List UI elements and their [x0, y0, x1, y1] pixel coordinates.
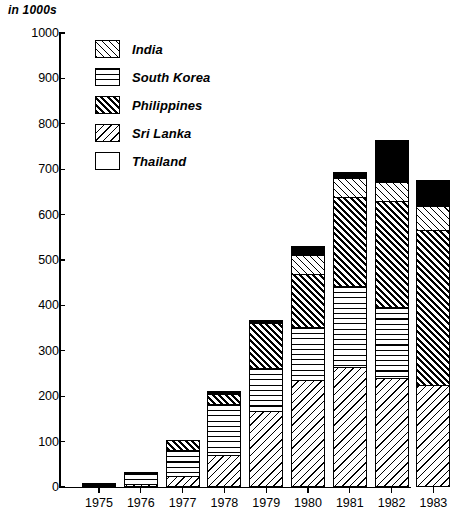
bar-segment-philippines — [416, 230, 450, 387]
y-axis-tick-label-wrap: 400 — [0, 299, 59, 311]
y-axis-tick — [59, 123, 65, 124]
bar-segment-south-korea — [375, 307, 409, 380]
bar-segment-south-korea — [291, 327, 325, 381]
x-axis-tick — [140, 487, 141, 493]
x-axis-tick-label: 1975 — [76, 496, 122, 510]
bar-segment-sri-lanka — [416, 385, 450, 487]
bar-segment-south-korea — [333, 286, 367, 368]
y-axis-tick-label: 900 — [7, 72, 59, 84]
x-axis-tick-label: 1976 — [118, 496, 164, 510]
bar-segment-thailand — [416, 180, 450, 207]
y-axis-tick-label: 800 — [7, 118, 59, 130]
x-axis-tick — [182, 487, 183, 493]
y-axis-tick — [59, 350, 65, 351]
x-axis-tick-label: 1979 — [243, 496, 289, 510]
x-axis-tick-label: 1980 — [285, 496, 331, 510]
y-axis-tick-label-wrap: 1000 — [0, 27, 59, 39]
x-axis-tick-label: 1982 — [369, 496, 415, 510]
y-axis-tick — [59, 441, 65, 442]
y-axis-tick-label-wrap: 900 — [0, 72, 59, 84]
y-axis-tick-label-wrap: 800 — [0, 118, 59, 130]
chart-legend: IndiaSouth KoreaPhilippinesSri LankaThai… — [95, 37, 210, 177]
x-axis-tick — [224, 487, 225, 493]
y-axis-tick-label: 100 — [7, 436, 59, 448]
y-axis-tick-label-wrap: 0 — [0, 481, 59, 493]
legend-item-sri-lanka[interactable]: Sri Lanka — [95, 121, 210, 145]
legend-swatch-icon — [95, 152, 120, 170]
x-axis-tick — [98, 487, 99, 493]
bar-segment-india — [375, 182, 409, 202]
bar-segment-sri-lanka — [166, 476, 200, 487]
bar-segment-south-korea — [249, 368, 283, 412]
legend-label: Thailand — [132, 154, 186, 169]
y-axis-tick-label: 200 — [7, 390, 59, 402]
x-axis-tick — [266, 487, 267, 493]
bar-1979[interactable] — [249, 320, 283, 487]
bar-1976[interactable] — [124, 472, 158, 487]
bar-segment-south-korea — [207, 404, 241, 456]
bar-segment-philippines — [375, 201, 409, 308]
x-axis-tick-label: 1983 — [410, 496, 454, 510]
legend-swatch-icon — [95, 40, 120, 58]
bar-segment-thailand — [375, 140, 409, 183]
y-axis-tick-label: 500 — [7, 254, 59, 266]
legend-item-south-korea[interactable]: South Korea — [95, 65, 210, 89]
y-axis-tick-label-wrap: 500 — [0, 254, 59, 266]
legend-label: India — [132, 42, 163, 57]
bar-segment-india — [416, 206, 450, 231]
bar-1983[interactable] — [416, 180, 450, 487]
y-axis-tick-label-wrap: 700 — [0, 163, 59, 175]
bar-segment-india — [291, 255, 325, 275]
legend-item-india[interactable]: India — [95, 37, 210, 61]
legend-swatch-icon — [95, 68, 120, 86]
y-axis-tick — [59, 259, 65, 260]
y-axis-tick-label: 1000 — [7, 27, 59, 39]
y-axis-tick-label: 600 — [7, 209, 59, 221]
x-axis-tick — [433, 487, 434, 493]
x-axis-tick-label: 1977 — [160, 496, 206, 510]
y-axis-tick-label-wrap: 600 — [0, 209, 59, 221]
legend-label: Philippines — [132, 98, 202, 113]
x-axis-tick — [391, 487, 392, 493]
x-axis-tick — [349, 487, 350, 493]
bar-segment-sri-lanka — [333, 367, 367, 487]
bar-segment-philippines — [291, 274, 325, 328]
bar-segment-sri-lanka — [291, 380, 325, 487]
bar-segment-india — [333, 178, 367, 198]
legend-label: South Korea — [132, 70, 210, 85]
y-axis-tick — [59, 396, 65, 397]
x-axis-tick-label: 1978 — [201, 496, 247, 510]
y-axis-tick-label-wrap: 300 — [0, 345, 59, 357]
x-axis-tick-label: 1981 — [327, 496, 373, 510]
legend-swatch-icon — [95, 124, 120, 142]
bar-segment-philippines — [333, 197, 367, 288]
y-axis-tick-label-wrap: 200 — [0, 390, 59, 402]
bar-1978[interactable] — [207, 391, 241, 487]
bar-1980[interactable] — [291, 246, 325, 487]
y-axis-tick-label-wrap: 100 — [0, 436, 59, 448]
bar-segment-sri-lanka — [375, 378, 409, 487]
y-axis-tick — [59, 214, 65, 215]
legend-swatch-icon — [95, 96, 120, 114]
bar-1982[interactable] — [375, 140, 409, 487]
legend-item-thailand[interactable]: Thailand — [95, 149, 210, 173]
y-axis-tick-label: 400 — [7, 299, 59, 311]
bar-segment-sri-lanka — [249, 411, 283, 487]
legend-item-philippines[interactable]: Philippines — [95, 93, 210, 117]
legend-label: Sri Lanka — [132, 126, 191, 141]
bar-1981[interactable] — [333, 172, 367, 487]
bar-segment-south-korea — [166, 450, 200, 477]
y-axis-tick-label: 0 — [7, 481, 59, 493]
y-axis-tick-label: 300 — [7, 345, 59, 357]
y-axis-tick — [59, 305, 65, 306]
y-axis-tick-label: 700 — [7, 163, 59, 175]
bar-segment-philippines — [249, 323, 283, 369]
y-axis-tick — [59, 32, 65, 33]
x-axis-tick — [307, 487, 308, 493]
y-axis-tick — [59, 78, 65, 79]
y-axis-tick — [59, 169, 65, 170]
bar-segment-sri-lanka — [207, 455, 241, 487]
bar-1977[interactable] — [166, 440, 200, 487]
y-axis-tick — [59, 486, 65, 487]
